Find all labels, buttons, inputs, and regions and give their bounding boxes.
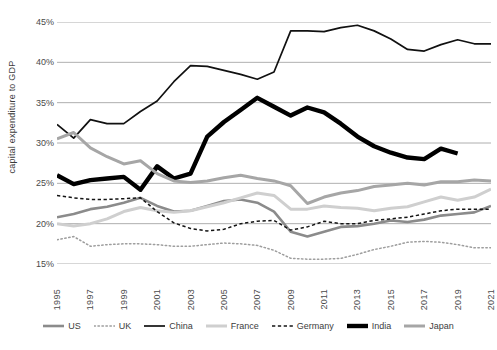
x-tick-label: 1999 [119,289,129,310]
x-tick-label: 2013 [352,289,362,310]
legend-swatch-india-icon [347,321,368,331]
legend-item-japan[interactable]: Japan [404,321,454,331]
legend-label: Germany [297,321,334,331]
x-tick-label: 2017 [419,289,429,310]
legend-item-france[interactable]: France [206,321,259,331]
legend-item-germany[interactable]: Germany [272,321,334,331]
x-tick-label: 2015 [386,289,396,310]
legend-swatch-us-icon [43,321,64,331]
legend-label: France [231,321,259,331]
legend-item-us[interactable]: US [43,321,81,331]
series-line-india [57,98,458,190]
series-line-china [57,25,491,138]
line-chart: capital expenditure to GDP 15%20%25%30%3… [0,0,497,350]
legend-swatch-china-icon [144,321,165,331]
legend-label: China [169,321,193,331]
y-tick-label: 40% [20,57,54,67]
series-line-us [57,198,491,237]
y-tick-label: 45% [20,17,54,27]
series-canvas [57,22,491,264]
legend-label: Japan [429,321,454,331]
legend-swatch-germany-icon [272,321,293,331]
legend-item-uk[interactable]: UK [94,321,132,331]
legend-item-china[interactable]: China [144,321,193,331]
x-axis-tick-labels: 1995199719992001200320052007200920112013… [57,266,491,310]
legend-item-india[interactable]: India [347,321,392,331]
legend-label: India [372,321,392,331]
x-tick-label: 2019 [453,289,463,310]
series-line-uk [57,237,491,260]
chart-legend: USUKChinaFranceGermanyIndiaJapan [0,316,497,336]
y-tick-label: 30% [20,138,54,148]
y-tick-label: 35% [20,98,54,108]
y-tick-label: 25% [20,178,54,188]
x-tick-label: 2011 [319,289,329,310]
x-tick-label: 2007 [252,289,262,310]
y-tick-label: 20% [20,219,54,229]
legend-swatch-uk-icon [94,321,115,331]
x-tick-label: 1995 [52,289,62,310]
x-tick-label: 2021 [486,289,496,310]
x-tick-label: 2009 [286,289,296,310]
x-tick-label: 2001 [152,289,162,310]
plot-area [57,22,491,264]
x-tick-label: 2005 [219,289,229,310]
legend-label: UK [119,321,132,331]
x-tick-label: 2003 [186,289,196,310]
legend-swatch-japan-icon [404,321,425,331]
legend-label: US [68,321,81,331]
x-tick-label: 1997 [85,289,95,310]
y-axis-tick-labels: 15%20%25%30%35%40%45% [14,0,54,350]
y-tick-label: 15% [20,259,54,269]
legend-swatch-france-icon [206,321,227,331]
